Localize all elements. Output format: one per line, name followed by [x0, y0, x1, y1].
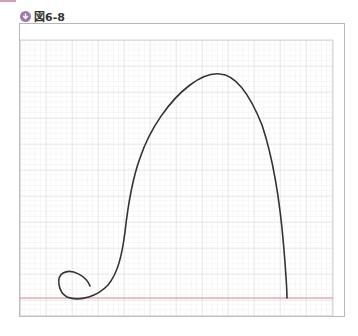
graph-paper-figure [0, 0, 358, 336]
